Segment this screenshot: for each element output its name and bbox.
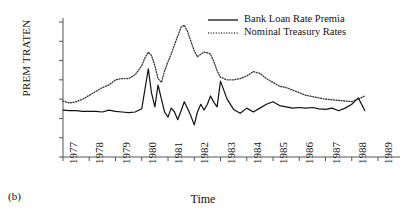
series-line: [63, 69, 365, 125]
legend-label: Bank Loan Rate Premia: [244, 13, 345, 24]
chart-figure: PREM TRATEN 0.180.150.120.090.060.030.00…: [0, 0, 406, 213]
legend-label: Nominal Treasury Rates: [244, 26, 346, 37]
